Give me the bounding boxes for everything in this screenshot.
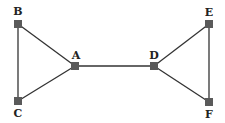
network-graph: BCADEF [0,0,225,123]
edge-b-a [18,24,75,66]
node-c [14,97,22,105]
nodes: BCADEF [13,5,213,121]
node-b [14,20,22,28]
node-label-a: A [71,49,81,62]
edge-d-e [154,24,209,66]
node-label-e: E [205,6,213,19]
node-e [205,20,213,28]
node-label-f: F [205,108,213,121]
edges [18,24,209,102]
edge-d-f [154,66,209,102]
edge-c-a [18,66,75,101]
node-d [150,62,158,70]
node-a [71,62,79,70]
node-label-c: C [14,107,23,120]
node-label-b: B [13,5,22,18]
node-f [205,98,213,106]
node-label-d: D [149,49,159,62]
